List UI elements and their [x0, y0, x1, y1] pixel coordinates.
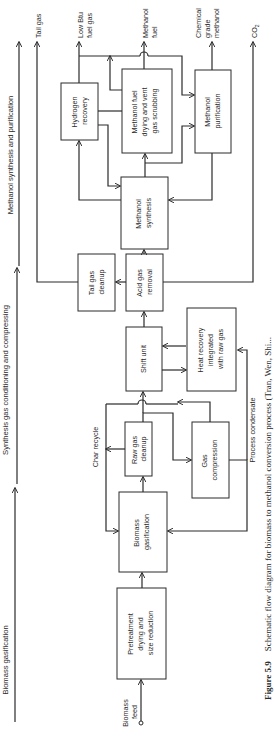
tail-gas-cleanup-label: Tail gas cleanup	[87, 269, 106, 295]
pretreatment-label: Pretreatment drying and size reduction	[126, 611, 155, 655]
tail-gas-line	[37, 42, 78, 282]
process-condensate-label: Process condensate	[248, 397, 257, 462]
arrow-purification-to-synthesis	[169, 153, 212, 200]
heat-recovery-label: Heat recovery integrated with raw gas	[196, 326, 225, 373]
line-crossover	[138, 400, 146, 404]
low-btu-label: Low Btu fuel gas	[76, 10, 94, 38]
arrow-drying-vent	[110, 56, 122, 90]
arrow-hydrogen-to-synthesis	[98, 125, 120, 186]
shift-unit-label: Shift unit	[139, 345, 148, 373]
char-recycle-label: Char recycle	[91, 427, 100, 467]
hydrogen-recovery-label: Hydrogen recovery	[70, 94, 89, 127]
chemical-grade-label: Chemical grade methanol	[194, 6, 221, 38]
tail-gas-label: Tail gas	[34, 13, 43, 38]
arrow-compression-return	[178, 402, 210, 422]
gasification-label: Biomass gasification	[132, 514, 151, 550]
raw-gas-cleanup-label: Raw gas cleanup	[130, 434, 148, 464]
section-arrows	[15, 42, 19, 722]
char-recycle-line	[106, 404, 118, 531]
acid-gas-removal-label: Acid gas removal	[135, 267, 154, 297]
arrow-synthesis-to-hydrogen	[79, 141, 121, 200]
biomass-feed-label: Biomass feed	[121, 697, 139, 727]
methanol-fuel-label: Methanol fuel	[141, 6, 159, 38]
methanol-purification-label: Methanol purification	[203, 94, 222, 129]
section-label-gasification: Biomass gasification	[1, 625, 10, 694]
condensate-to-heat	[238, 350, 247, 460]
flow-diagram: Biomass gasification Synthesis gas condi…	[0, 0, 274, 741]
feed-inlet-icon	[139, 721, 143, 725]
methanol-synthesis-label: Methanol synthesis	[134, 197, 153, 229]
methanol-fuel-drying-label: Methanol fuel drying and vent gas scrubb…	[130, 85, 159, 136]
co2-label: CO2	[250, 24, 260, 38]
figure-caption: Figure 5.9 Schematic flow diagram for bi…	[257, 337, 274, 700]
section-label-conditioning: Synthesis gas conditioning and compressi…	[1, 305, 10, 455]
section-label-synthesis: Methanol synthesis and purification	[6, 96, 15, 215]
